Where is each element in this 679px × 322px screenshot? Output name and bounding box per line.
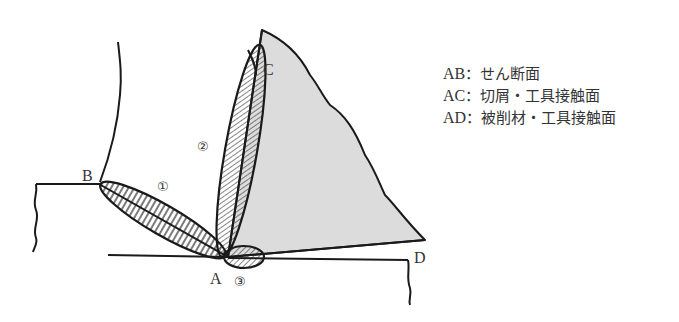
label-region-2: ② (197, 139, 209, 154)
label-region-1: ① (157, 179, 169, 194)
label-point-c: C (263, 61, 274, 78)
workpiece-right-break (408, 260, 411, 305)
label-point-a: A (210, 270, 222, 287)
legend-separator: ： (466, 109, 481, 127)
legend-label: 切屑・工具接触面 (480, 87, 600, 105)
chip-boundary (100, 42, 121, 182)
legend-key: AD (443, 109, 466, 126)
legend-separator: ： (465, 65, 480, 83)
workpiece-left-break (33, 184, 37, 252)
label-region-3: ③ (234, 274, 246, 289)
legend-label: 被削材・工具接触面 (481, 109, 616, 127)
legend-item-ad: AD：被削材・工具接触面 (443, 107, 616, 129)
cutting-diagram: A B C D ① ② ③ (0, 0, 679, 322)
legend: AB：せん断面 AC：切屑・工具接触面 AD：被削材・工具接触面 (443, 63, 616, 129)
shear-plane-AB (99, 184, 228, 257)
label-point-d: D (414, 249, 426, 266)
legend-key: AC (443, 87, 465, 104)
legend-item-ab: AB：せん断面 (443, 63, 616, 85)
legend-key: AB (443, 65, 465, 82)
label-point-b: B (82, 167, 93, 184)
legend-separator: ： (465, 87, 480, 105)
legend-item-ac: AC：切屑・工具接触面 (443, 85, 616, 107)
legend-label: せん断面 (480, 65, 540, 83)
